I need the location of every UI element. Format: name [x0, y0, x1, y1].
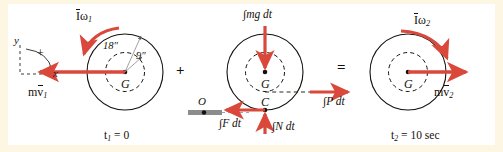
panel3-inertia-symbol: I [414, 14, 418, 26]
panel1-mass-symbol: m [28, 85, 37, 99]
panel2-weight-impulse-label: ∫mg dt [243, 9, 272, 21]
panel2-friction-impulse-label: ∫F dt [219, 118, 241, 130]
panel2-impulse-vectors [226, 26, 348, 134]
axis-label-y: y [14, 35, 19, 46]
panel3-linear-momentum-label: mv2 [434, 86, 453, 100]
panel1-outer-radius-label: 18″ [103, 41, 118, 52]
operator-equals: = [337, 60, 346, 75]
panel1-velocity-symbol: v [37, 86, 43, 98]
panel3-time-value: = 10 sec [401, 129, 439, 141]
panel2-contact-label: C [261, 96, 269, 108]
panel3-velocity-symbol: v [443, 86, 449, 98]
panel3-angular-momentum-label: Iω2 [414, 14, 430, 28]
panel1-omega-symbol: ω [80, 9, 88, 23]
panel3-velocity-subscript: 2 [449, 91, 453, 100]
panel1-time-label: t1= 0 [104, 130, 129, 143]
panel3-time-label: t2= 10 sec [391, 130, 440, 143]
panel2-applied-impulse-label: ∫P dt [323, 96, 345, 108]
panel3-omega-subscript: 2 [426, 19, 430, 28]
panel1-angular-momentum-label: Iω1 [76, 10, 92, 24]
panel1-time-subscript: 1 [107, 134, 111, 143]
panel1-linear-momentum-label: mv1 [28, 86, 47, 100]
operator-plus: + [176, 63, 185, 78]
panel3-angular-momentum-arc [401, 31, 447, 58]
panel2-disk [227, 34, 324, 112]
panel3-center-label: G [404, 78, 413, 90]
panel2-origin-label: O [198, 96, 206, 107]
panel3-time-subscript: 2 [394, 134, 398, 143]
axis-label-x: x [53, 68, 58, 79]
axis-positive-sign: + [37, 47, 44, 59]
panel3-mass-symbol: m [434, 85, 443, 99]
panel1-inner-radius-label: 9″ [136, 51, 146, 62]
panel3-omega-symbol: ω [418, 13, 426, 27]
figure-canvas: y x + Iω1 18″ 9″ G mv1 t1= 0 + = ∫mg dt … [0, 0, 503, 152]
axes-key-lines [20, 45, 52, 74]
panel1-center-label: G [121, 78, 130, 90]
panel1-omega-subscript: 1 [88, 15, 92, 24]
panel2-center-label: G [261, 78, 270, 90]
panel1-inertia-symbol: I [76, 10, 80, 22]
panel1-time-value: = 0 [114, 129, 129, 141]
panel2-normal-impulse-label: ∫N dt [272, 121, 295, 133]
panel1-velocity-subscript: 1 [43, 91, 47, 100]
